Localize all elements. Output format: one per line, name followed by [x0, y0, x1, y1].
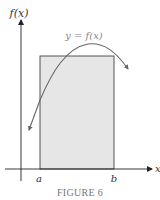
approximating-rectangle [40, 56, 114, 169]
figure-caption: FIGURE 6 [57, 187, 103, 198]
y-axis-label: f(x) [9, 7, 29, 20]
b-label: b [111, 173, 117, 184]
curve-label: y = f(x) [64, 30, 103, 41]
figure-canvas: f(x) x y = f(x) a b FIGURE 6 [0, 0, 160, 200]
x-axis-label: x [155, 163, 160, 174]
a-label: a [36, 173, 42, 184]
function-curve-left-tail [29, 100, 40, 130]
